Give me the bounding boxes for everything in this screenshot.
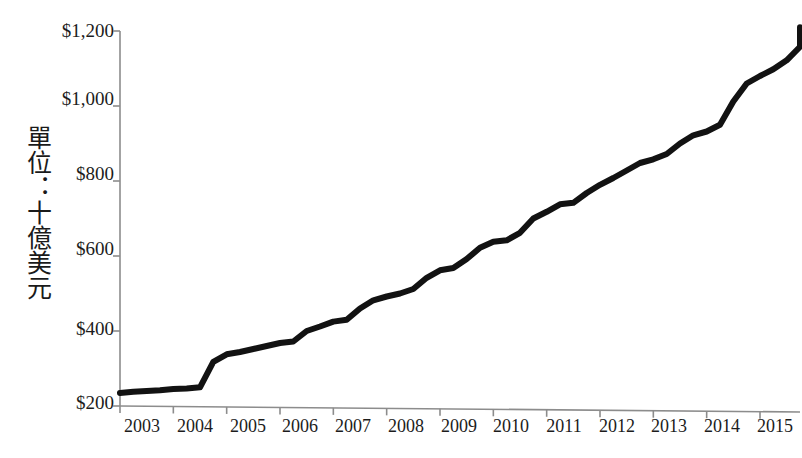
plot-area (0, 0, 802, 458)
data-series-line (120, 27, 800, 393)
chart-container: 單位：十億美元 $1,200 $1,000 $800 $600 $400 $20… (0, 0, 802, 458)
x-axis-ticks (120, 406, 760, 419)
y-axis-ticks (113, 31, 120, 406)
x-axis-line (120, 406, 800, 412)
